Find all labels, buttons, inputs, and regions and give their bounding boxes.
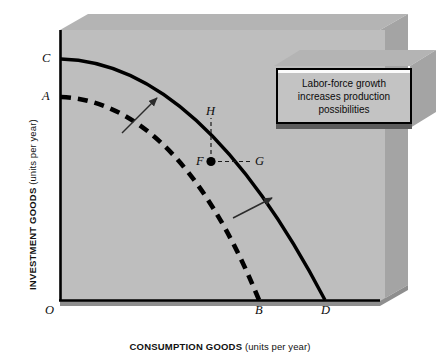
x-axis-title-strong: CONSUMPTION GOODS bbox=[130, 341, 243, 352]
panel-top-face bbox=[60, 14, 408, 30]
ppf-chart-canvas bbox=[0, 0, 440, 359]
label-point-c: C bbox=[42, 51, 50, 66]
callout-line-2: increases production bbox=[298, 91, 390, 102]
label-point-f: F bbox=[196, 154, 204, 169]
callout-highlight-edge bbox=[278, 70, 410, 73]
y-axis-title: INVESTMENT GOODS (units per year) bbox=[22, 0, 36, 290]
ppf-figure: Labor-force growth increases production … bbox=[0, 0, 440, 359]
callout-box: Labor-force growth increases production … bbox=[276, 68, 412, 124]
callout-line-3: possibilities bbox=[318, 104, 369, 115]
label-point-d: D bbox=[321, 303, 330, 318]
callout-bottom-shadow bbox=[276, 124, 412, 129]
x-axis-title-units: (units per year) bbox=[242, 341, 310, 352]
label-point-o: O bbox=[45, 303, 54, 318]
label-point-b: B bbox=[255, 303, 263, 318]
callout-line-1: Labor-force growth bbox=[302, 78, 386, 89]
label-point-h: H bbox=[206, 104, 215, 119]
point-f-marker bbox=[206, 157, 215, 166]
label-point-g: G bbox=[255, 154, 264, 169]
callout-top-face bbox=[274, 50, 436, 66]
callout-text: Labor-force growth increases production … bbox=[292, 77, 396, 116]
x-axis-title: CONSUMPTION GOODS (units per year) bbox=[0, 336, 440, 354]
label-point-a: A bbox=[42, 89, 50, 104]
y-axis-title-strong: INVESTMENT GOODS bbox=[27, 188, 38, 290]
y-axis-title-units: (units per year) bbox=[27, 119, 38, 187]
